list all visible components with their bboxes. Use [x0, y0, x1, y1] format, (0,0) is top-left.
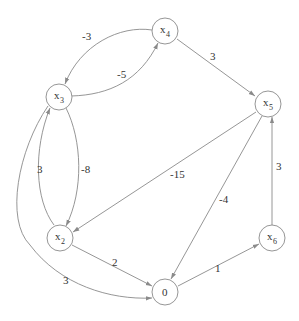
- edge-label-x2-x3: 3: [37, 163, 43, 175]
- edge-label-x3-0: 3: [63, 274, 69, 286]
- node-subscript: 4: [166, 30, 170, 39]
- edge-x3-x2: [66, 108, 79, 226]
- edge-label-x3-x4: -5: [117, 68, 127, 80]
- edge-label-x3-x2: -8: [81, 163, 91, 175]
- node-x4: x 4: [152, 18, 178, 44]
- graph-canvas: -3 -5 3 3 -8 -15 -4 3 3 2 1 x 3 x 4 x 5: [0, 0, 299, 321]
- edges: [17, 29, 272, 298]
- node-label: 0: [162, 286, 168, 298]
- edge-x3-x4: [71, 43, 158, 96]
- edge-x5-x2: [73, 112, 256, 232]
- edge-label-x5-x2: -15: [170, 168, 185, 180]
- node-subscript: 5: [269, 103, 273, 112]
- graph-svg: -3 -5 3 3 -8 -15 -4 3 3 2 1 x 3 x 4 x 5: [0, 0, 299, 321]
- edge-label-x4-x5: 3: [210, 50, 216, 62]
- edge-label-x4-x3: -3: [82, 30, 92, 42]
- edge-x5-0: [171, 116, 262, 279]
- node-x3: x 3: [46, 84, 72, 110]
- node-subscript: 6: [273, 237, 277, 246]
- node-x6: x 6: [259, 225, 285, 251]
- node-x5: x 5: [255, 91, 281, 117]
- edge-label-0-x6: 1: [215, 262, 221, 274]
- edge-x4-x5: [177, 39, 255, 96]
- edge-label-x6-x5: 3: [276, 160, 282, 172]
- node-subscript: 2: [61, 237, 65, 246]
- edge-label-x2-0: 2: [112, 256, 118, 268]
- edge-x3-0: [17, 106, 152, 298]
- edge-labels: -3 -5 3 3 -8 -15 -4 3 3 2 1: [37, 30, 282, 286]
- edge-x4-x3: [65, 29, 152, 84]
- node-0: 0: [152, 279, 178, 305]
- edge-label-x5-0: -4: [219, 193, 229, 205]
- node-x2: x 2: [47, 225, 73, 251]
- node-subscript: 3: [60, 96, 64, 105]
